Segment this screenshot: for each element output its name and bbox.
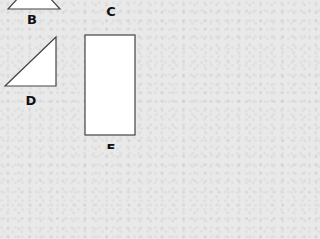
label-d: D <box>26 94 37 107</box>
label-e: E <box>107 142 116 149</box>
label-c: C <box>106 5 116 18</box>
rectangle-e <box>85 35 135 135</box>
triangle-d <box>5 37 56 86</box>
triangle-b <box>8 0 60 9</box>
label-b: B <box>27 13 37 26</box>
shapes-canvas <box>0 0 140 149</box>
